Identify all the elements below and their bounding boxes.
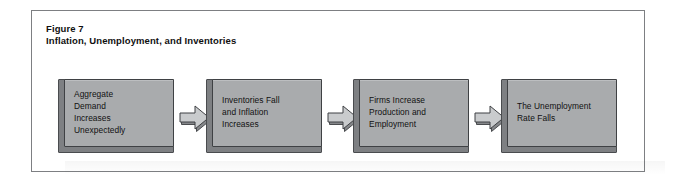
flow-box-4: The Unemployment Rate Falls [501, 79, 617, 153]
flow-box-2: Inventories Fall and Inflation Increases [206, 79, 322, 153]
flow-box-1-label: Aggregate Demand Increases Unexpectedly [65, 89, 131, 137]
figure-frame: Figure 7 Inflation, Unemployment, and In… [31, 10, 645, 172]
arrow-right-icon [475, 106, 504, 129]
flow-box-3-label: Firms Increase Production and Employment [360, 95, 432, 131]
box-front-face: Inventories Fall and Inflation Increases [212, 79, 322, 147]
box-front-face: The Unemployment Rate Falls [507, 79, 617, 147]
flow-box-4-label: The Unemployment Rate Falls [508, 101, 597, 125]
figure-container: Figure 7 Inflation, Unemployment, and In… [0, 0, 675, 183]
flowchart: Aggregate Demand Increases Unexpectedly … [32, 11, 646, 173]
box-front-face: Firms Increase Production and Employment [359, 79, 469, 147]
flow-box-1: Aggregate Demand Increases Unexpectedly [58, 79, 174, 153]
flow-box-2-label: Inventories Fall and Inflation Increases [213, 95, 286, 131]
flow-box-3: Firms Increase Production and Employment [353, 79, 469, 153]
arrow-right-icon [180, 106, 209, 129]
box-front-face: Aggregate Demand Increases Unexpectedly [64, 79, 174, 147]
